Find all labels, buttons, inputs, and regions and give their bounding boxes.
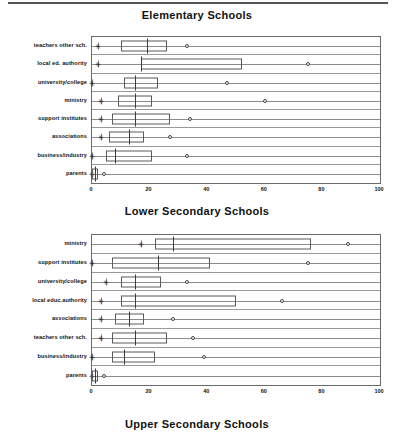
extreme-marker-icon: ✳ [98, 134, 104, 141]
outlier-marker-icon [168, 135, 172, 139]
whisker-high [170, 119, 190, 120]
whisker-low [101, 301, 121, 302]
whisker-high [236, 301, 282, 302]
whisker-high [158, 83, 227, 84]
whisker-low [92, 263, 112, 264]
boxplot-lower-secondary-schools: ✳✳✳✳✳✳✳✳ 020406080100 ministrysupport in… [0, 228, 394, 400]
extreme-marker-icon: ✳ [138, 241, 144, 248]
extreme-marker-icon: ✳ [98, 97, 104, 104]
box-iqr [124, 77, 159, 88]
extreme-marker-icon: ✳ [95, 43, 101, 50]
whisker-high [242, 64, 308, 65]
whisker-high [311, 244, 348, 245]
category-label: business/industry [2, 152, 90, 158]
category-label: university/college [2, 278, 90, 284]
median-line [135, 293, 136, 308]
boxplot-row: ✳ [92, 291, 380, 310]
outlier-marker-icon [263, 99, 267, 103]
boxplot-row: ✳ [92, 254, 380, 273]
category-label: support institutes [2, 259, 90, 265]
category-label: parents [2, 372, 90, 378]
median-line [158, 256, 159, 271]
row-baseline [92, 376, 380, 377]
x-axis-tick-label: 100 [374, 388, 383, 394]
x-axis-tick-label: 20 [146, 186, 152, 192]
median-line [95, 368, 96, 383]
boxplot-row: ✳ [92, 92, 380, 110]
outlier-marker-icon [188, 117, 192, 121]
figure-page: Elementary Schools ✳✳✳✳✳✳✳✳ 020406080100… [0, 0, 394, 436]
box-iqr [141, 59, 242, 70]
extreme-marker-icon: ✳ [103, 278, 109, 285]
median-line [135, 274, 136, 289]
median-line [95, 166, 96, 181]
whisker-low [92, 357, 112, 358]
boxplot-row: ✳ [92, 37, 380, 55]
boxplot-row: ✳ [92, 273, 380, 292]
median-line [129, 130, 130, 145]
box-iqr [121, 295, 236, 306]
x-axis-tick-label: 60 [261, 388, 267, 394]
outlier-marker-icon [102, 374, 106, 378]
boxplot-row: ✳ [92, 165, 380, 183]
whisker-high [152, 156, 187, 157]
whisker-low [92, 83, 124, 84]
x-axis-tick-label: 100 [374, 186, 383, 192]
median-line [135, 112, 136, 127]
x-axis-tick-label: 40 [203, 388, 209, 394]
whisker-high [144, 319, 173, 320]
chart-title-lower-secondary: Lower Secondary Schools [0, 205, 394, 217]
box-iqr [121, 41, 167, 52]
whisker-high [167, 46, 187, 47]
whisker-low [98, 46, 121, 47]
x-axis-elementary: 020406080100 [91, 186, 381, 200]
median-line [124, 349, 125, 364]
box-iqr [106, 150, 152, 161]
boxplot-row: ✳ [92, 110, 380, 128]
x-axis-tick-label: 0 [89, 388, 92, 394]
box-iqr [112, 258, 210, 269]
boxplot-row: ✳ [92, 329, 380, 348]
box-iqr [155, 239, 311, 250]
outlier-marker-icon [191, 336, 195, 340]
top-divider [8, 2, 388, 4]
median-line [135, 331, 136, 346]
boxplot-row: ✳ [92, 366, 380, 385]
extreme-marker-icon: ✳ [98, 116, 104, 123]
box-iqr [112, 351, 155, 362]
outlier-marker-icon [171, 317, 175, 321]
x-axis-tick-label: 80 [318, 388, 324, 394]
whisker-low [98, 64, 141, 65]
median-line [115, 148, 116, 163]
extreme-marker-icon: ✳ [98, 316, 104, 323]
boxplot-row: ✳ [92, 235, 380, 254]
boxplot-row: ✳ [92, 55, 380, 73]
boxplot-row: ✳ [92, 128, 380, 146]
whisker-high [167, 338, 193, 339]
category-label: local educ.authority [2, 297, 90, 303]
row-baseline [92, 174, 380, 175]
whisker-high [144, 137, 170, 138]
median-line [135, 93, 136, 108]
plot-area-lower: ✳✳✳✳✳✳✳✳ [91, 234, 381, 386]
outlier-marker-icon [202, 355, 206, 359]
x-axis-tick-label: 80 [318, 186, 324, 192]
category-label: local ed. authority [2, 60, 90, 66]
boxplot-row: ✳ [92, 74, 380, 92]
box-iqr [109, 132, 144, 143]
chart-title-upper-secondary: Upper Secondary Schools [0, 418, 394, 430]
x-axis-tick-label: 60 [261, 186, 267, 192]
median-line [135, 75, 136, 90]
category-label: university/college [2, 79, 90, 85]
whisker-high [155, 357, 204, 358]
x-axis-tick-label: 0 [89, 186, 92, 192]
box-iqr [121, 276, 161, 287]
boxplot-elementary-schools: ✳✳✳✳✳✳✳✳ 020406080100 teachers other sch… [0, 30, 394, 195]
extreme-marker-icon: ✳ [98, 297, 104, 304]
outlier-marker-icon [185, 44, 189, 48]
outlier-marker-icon [185, 154, 189, 158]
category-label: support institutes [2, 115, 90, 121]
category-label: associations [2, 315, 90, 321]
box-iqr [112, 333, 167, 344]
outlier-marker-icon [306, 62, 310, 66]
